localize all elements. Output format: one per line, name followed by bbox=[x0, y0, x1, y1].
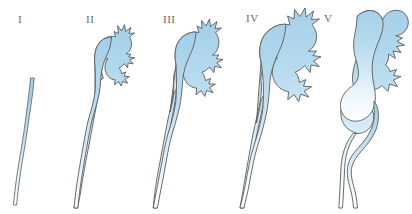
stage-2-drawing bbox=[74, 25, 135, 209]
stage-label-grade-4: IV bbox=[246, 13, 259, 24]
grade-1-ureter-shape bbox=[13, 78, 34, 205]
figure-illustration bbox=[0, 0, 412, 214]
hydronephrosis-grades-figure: I II III IV V bbox=[0, 0, 412, 214]
stage-3-drawing bbox=[153, 19, 223, 208]
stage-4-drawing bbox=[240, 8, 321, 208]
stage-label-grade-2: II bbox=[86, 14, 94, 25]
grade-4-pelvis-fill bbox=[240, 24, 286, 208]
stage-label-grade-1: I bbox=[18, 14, 22, 25]
stage-5-drawing bbox=[339, 10, 408, 208]
stage-label-grade-5: V bbox=[324, 13, 332, 24]
stage-label-grade-3: III bbox=[163, 14, 176, 25]
stage-1-drawing bbox=[13, 78, 34, 205]
